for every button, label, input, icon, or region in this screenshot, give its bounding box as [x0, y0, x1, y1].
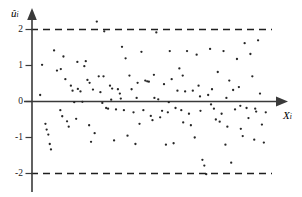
data-point	[93, 132, 95, 134]
data-point	[53, 49, 55, 51]
data-point	[113, 139, 115, 141]
data-point	[75, 118, 77, 120]
data-point	[103, 30, 105, 32]
data-point	[142, 109, 144, 111]
data-point	[255, 110, 257, 112]
data-point	[157, 98, 159, 100]
y-tick-label: 1	[18, 60, 23, 70]
data-point	[44, 123, 46, 125]
data-point	[159, 116, 161, 118]
data-point	[243, 42, 245, 44]
data-point	[62, 55, 64, 57]
data-point	[140, 51, 142, 53]
data-point	[249, 53, 251, 55]
x-axis-group	[24, 96, 288, 106]
data-point	[224, 144, 226, 146]
y-axis-arrow-icon	[27, 8, 37, 20]
data-point	[115, 108, 117, 110]
data-point	[165, 144, 167, 146]
x-axis-title-subscript: i	[290, 112, 292, 121]
data-point	[71, 90, 73, 92]
data-point	[120, 97, 122, 99]
data-point	[171, 78, 173, 80]
data-point	[245, 107, 247, 109]
data-point	[138, 123, 140, 125]
data-point	[259, 92, 261, 94]
data-point	[119, 92, 121, 94]
y-axis-group	[27, 8, 37, 192]
data-point	[70, 85, 72, 87]
data-point	[88, 124, 90, 126]
data-point	[109, 85, 111, 87]
data-point	[81, 101, 83, 103]
data-point	[186, 50, 188, 52]
data-point	[130, 88, 132, 90]
data-point	[188, 113, 190, 115]
data-point	[210, 103, 212, 105]
data-point	[201, 159, 203, 161]
data-point	[199, 95, 201, 97]
data-point	[50, 148, 52, 150]
data-points-group	[39, 20, 267, 175]
data-point	[263, 141, 265, 143]
data-point	[194, 136, 196, 138]
data-point	[232, 89, 234, 91]
data-point	[190, 124, 192, 126]
data-point	[234, 108, 236, 110]
data-point	[226, 126, 228, 128]
data-point	[59, 109, 61, 111]
data-point	[205, 173, 207, 175]
y-tick-label: 2	[18, 24, 23, 34]
data-point	[215, 118, 217, 120]
data-point	[225, 97, 227, 99]
data-point	[126, 135, 128, 137]
data-point	[251, 75, 253, 77]
data-point	[85, 60, 87, 62]
data-point	[56, 69, 58, 71]
data-point	[102, 75, 104, 77]
data-point	[123, 109, 125, 111]
data-point	[128, 74, 130, 76]
x-axis-title: Xi	[283, 105, 292, 123]
data-point	[254, 108, 256, 110]
data-point	[182, 74, 184, 76]
data-point	[172, 142, 174, 144]
residual-scatter-figure: 210-1-2 ûi Xi	[0, 0, 302, 197]
data-point	[178, 67, 180, 69]
data-point	[195, 54, 197, 56]
data-point	[92, 88, 94, 90]
data-point	[99, 91, 101, 93]
y-axis-title-subscript: i	[17, 10, 19, 19]
data-point	[207, 94, 209, 96]
data-point	[163, 83, 165, 85]
data-point	[49, 143, 51, 145]
data-point	[98, 75, 100, 77]
data-point	[121, 46, 123, 48]
data-point	[197, 85, 199, 87]
data-point	[176, 90, 178, 92]
data-point	[41, 64, 43, 66]
data-point	[174, 107, 176, 109]
data-point	[261, 123, 263, 125]
data-point	[68, 126, 70, 128]
data-point	[86, 79, 88, 81]
data-point	[73, 101, 75, 103]
data-point	[168, 101, 170, 103]
data-point	[153, 74, 155, 76]
data-point	[101, 102, 103, 104]
data-point	[242, 135, 244, 137]
data-point	[153, 97, 155, 99]
data-point	[169, 50, 171, 52]
data-point	[192, 90, 194, 92]
data-point	[148, 81, 150, 83]
data-point	[96, 20, 98, 22]
data-point	[238, 86, 240, 88]
data-point	[132, 111, 134, 113]
data-point	[220, 113, 222, 115]
data-point	[230, 162, 232, 164]
data-point	[180, 109, 182, 111]
data-point	[47, 133, 49, 135]
data-point	[222, 50, 224, 52]
data-point	[136, 82, 138, 84]
data-point	[253, 139, 255, 141]
